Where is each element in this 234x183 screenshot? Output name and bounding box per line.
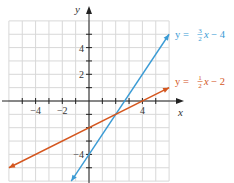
fraction-denominator: 2 bbox=[198, 82, 202, 90]
equation-labels: y = 32x − 4y = 12x − 2 bbox=[175, 27, 226, 90]
arrowhead-icon bbox=[164, 34, 169, 40]
x-tick-label: 4 bbox=[140, 105, 145, 116]
fraction-numerator: 1 bbox=[198, 74, 202, 82]
y-axis-arrow-icon bbox=[86, 6, 92, 14]
y-axis-label: y bbox=[74, 3, 80, 15]
equation-suffix: x − 2 bbox=[203, 76, 225, 87]
fraction-numerator: 3 bbox=[198, 27, 202, 35]
tick-labels: −4−2442−4xy bbox=[30, 3, 183, 160]
linear-equations-graph: −4−2442−4xy y = 32x − 4y = 12x − 2 bbox=[0, 0, 234, 183]
y-tick-label: 2 bbox=[79, 69, 84, 80]
equation-prefix: y = bbox=[175, 29, 189, 40]
y-tick-label: 4 bbox=[79, 43, 84, 54]
x-tick-label: −2 bbox=[57, 105, 68, 116]
fraction-denominator: 2 bbox=[198, 35, 202, 43]
x-axis-label: x bbox=[177, 106, 183, 118]
x-tick-label: −4 bbox=[30, 105, 41, 116]
line-steep bbox=[71, 34, 169, 181]
equation-label: y = 32x − 4 bbox=[175, 27, 226, 43]
equation-suffix: x − 4 bbox=[203, 29, 226, 40]
equation-label: y = 12x − 2 bbox=[175, 74, 225, 90]
y-tick-label: −4 bbox=[73, 149, 84, 160]
equation-prefix: y = bbox=[175, 76, 189, 87]
x-axis-arrow-icon bbox=[176, 98, 184, 104]
